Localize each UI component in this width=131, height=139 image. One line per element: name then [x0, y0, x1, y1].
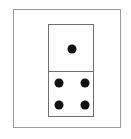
domino-bottom-half: [49, 72, 93, 116]
pip-bottom-right: [81, 101, 90, 110]
pip-top-right: [81, 79, 90, 88]
pip-center: [68, 45, 77, 54]
pip-top-left: [55, 79, 64, 88]
pip-bottom-left: [55, 101, 64, 110]
outer-frame: [13, 9, 121, 128]
domino-tile: [48, 24, 94, 117]
domino-top-half: [49, 25, 93, 72]
figure-canvas: [0, 0, 131, 139]
